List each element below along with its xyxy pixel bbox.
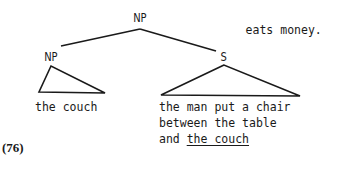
- leaf-right-text: the man put a chairbetween the tableand …: [159, 99, 291, 147]
- node-s: S: [221, 50, 227, 63]
- node-left-np: NP: [44, 50, 57, 63]
- triangle-s: [161, 65, 300, 96]
- triangle-np: [39, 66, 105, 93]
- underlined-phrase: the couch: [187, 131, 249, 146]
- branch-root-to-np: [61, 29, 140, 46]
- leaf-right-line-1: the man put a chair: [159, 99, 291, 115]
- example-number: (76): [2, 140, 24, 156]
- leaf-right-line-3: and the couch: [159, 131, 291, 147]
- leaf-right-line-2: between the table: [159, 115, 291, 131]
- leaf-left-text: the couch: [35, 99, 97, 115]
- node-root-np: NP: [133, 11, 146, 24]
- branch-root-to-s: [140, 29, 216, 51]
